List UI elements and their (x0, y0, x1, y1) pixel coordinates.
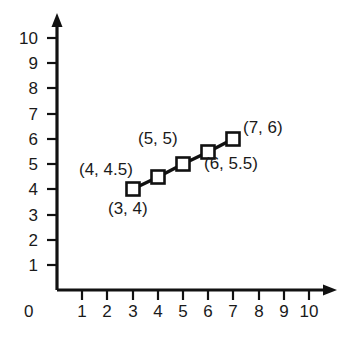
y-tick-label-8: 8 (4, 80, 38, 97)
x-tick-label-10: 10 (296, 303, 322, 320)
x-tick-label-1: 1 (69, 303, 95, 320)
origin-label: 0 (24, 303, 33, 320)
y-tick-label-7: 7 (4, 106, 38, 123)
data-point-marker[interactable] (177, 158, 190, 171)
x-tick-label-9: 9 (271, 303, 297, 320)
y-tick-label-9: 9 (4, 55, 38, 72)
point-annotation-7-6: (7, 6) (243, 119, 283, 136)
vertical-axis (52, 13, 63, 290)
x-tick-label-8: 8 (246, 303, 272, 320)
x-tick-label-6: 6 (195, 303, 221, 320)
y-tick-label-3: 3 (4, 207, 38, 224)
y-tick-label-5: 5 (4, 156, 38, 173)
horizontal-axis (57, 285, 337, 296)
y-tick-label-6: 6 (4, 131, 38, 148)
y-tick-label-4: 4 (4, 181, 38, 198)
point-annotation-4-4.5: (4, 4.5) (79, 161, 133, 178)
x-tick-label-3: 3 (120, 303, 146, 320)
x-tick-label-4: 4 (145, 303, 171, 320)
chart-canvas: 10 9 8 7 6 5 4 3 2 1 0 1 2 3 4 5 6 7 8 9… (0, 0, 345, 341)
y-tick-label-10: 10 (4, 30, 38, 47)
x-tick-label-5: 5 (170, 303, 196, 320)
point-annotation-6-5.5: (6, 5.5) (204, 155, 258, 172)
y-tick-label-1: 1 (4, 257, 38, 274)
chart-plot-area (0, 0, 345, 341)
x-tick-label-2: 2 (94, 303, 120, 320)
point-annotation-5-5: (5, 5) (138, 130, 178, 147)
x-tick-label-7: 7 (220, 303, 246, 320)
point-annotation-3-4: (3, 4) (108, 200, 148, 217)
data-point-marker[interactable] (227, 133, 240, 146)
y-tick-label-2: 2 (4, 232, 38, 249)
data-point-marker[interactable] (152, 171, 165, 184)
data-point-marker[interactable] (127, 183, 140, 196)
